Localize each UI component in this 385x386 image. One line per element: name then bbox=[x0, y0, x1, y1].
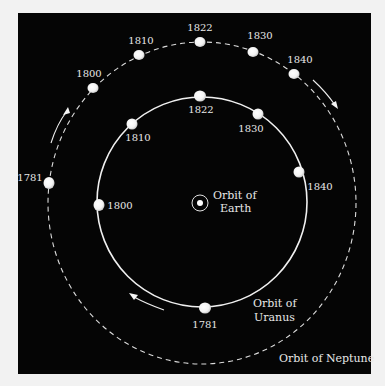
neptune-year-1810: 1810 bbox=[128, 35, 153, 46]
uranus-year-1781: 1781 bbox=[192, 319, 217, 330]
earth-orbit-label-line2: Earth bbox=[220, 202, 251, 215]
neptune-year-1781: 1781 bbox=[17, 172, 42, 183]
orbit-diagram: Orbit of Earth 1781 1800 1810 1822 1830 … bbox=[0, 0, 385, 386]
neptune-planet-1822 bbox=[195, 37, 206, 47]
neptune-year-1830: 1830 bbox=[247, 30, 272, 41]
uranus-year-1840: 1840 bbox=[307, 181, 332, 192]
neptune-planet-1800 bbox=[88, 83, 99, 93]
uranus-orbit-label-line1: Orbit of bbox=[253, 297, 297, 310]
neptune-year-1840: 1840 bbox=[287, 54, 312, 65]
uranus-orbit-label-line2: Uranus bbox=[254, 311, 295, 324]
earth-orbit-label-line1: Orbit of bbox=[213, 189, 257, 202]
orbit-diagram-svg: Orbit of Earth 1781 1800 1810 1822 1830 … bbox=[0, 0, 385, 386]
neptune-planet-1810 bbox=[134, 50, 145, 60]
uranus-planet-1840 bbox=[294, 167, 305, 178]
neptune-year-1822: 1822 bbox=[187, 22, 212, 33]
uranus-planet-1800 bbox=[94, 199, 105, 211]
uranus-planet-1810 bbox=[127, 119, 138, 130]
uranus-year-1830: 1830 bbox=[238, 123, 263, 134]
uranus-planet-1781 bbox=[199, 303, 211, 314]
uranus-planet-1830 bbox=[253, 109, 264, 120]
neptune-orbit-label: Orbit of Neptune bbox=[279, 352, 374, 365]
uranus-year-1800: 1800 bbox=[107, 200, 132, 211]
uranus-year-1822: 1822 bbox=[188, 104, 213, 115]
neptune-planet-1840 bbox=[289, 69, 300, 79]
neptune-planet-1830 bbox=[248, 47, 259, 57]
uranus-year-1810: 1810 bbox=[125, 132, 150, 143]
uranus-planet-1822 bbox=[194, 91, 206, 102]
neptune-year-1800: 1800 bbox=[76, 68, 101, 79]
neptune-planet-1781 bbox=[44, 177, 55, 189]
